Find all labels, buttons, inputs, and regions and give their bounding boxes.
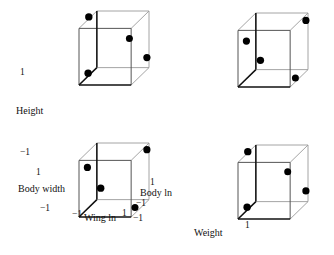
- tick-label-corner-neg: −1: [133, 214, 143, 224]
- data-point: [126, 35, 133, 42]
- label-body-ln: Body ln: [140, 188, 172, 198]
- tick-label-tl-pos-1: 1: [20, 68, 25, 78]
- data-point: [292, 75, 299, 82]
- cube-plot-height-vs-wing-ln: [79, 11, 149, 85]
- data-point: [143, 146, 150, 153]
- tick-label-wing-pos: 1: [122, 209, 127, 219]
- data-point: [302, 187, 309, 194]
- cube-plot-height-vs-body-ln: [238, 13, 308, 87]
- data-point: [244, 148, 251, 155]
- data-point: [243, 203, 250, 210]
- data-point: [257, 57, 264, 64]
- label-body-width: Body width: [18, 184, 65, 194]
- tick-label-bl-neg-2: −1: [40, 204, 50, 214]
- cube-axis-edges: [238, 13, 256, 87]
- data-point: [97, 184, 104, 191]
- tick-label-bodyln-pos: 1: [150, 178, 155, 188]
- data-point: [302, 17, 309, 24]
- data-point: [84, 164, 91, 171]
- data-point: [84, 69, 91, 76]
- data-point: [243, 38, 250, 45]
- label-wing-ln: Wing ln: [84, 213, 116, 223]
- tick-label-bodyln-neg: −1: [136, 199, 146, 209]
- label-weight: Weight: [194, 228, 223, 238]
- label-height: Height: [16, 106, 43, 116]
- cube-axis-edges: [79, 143, 97, 217]
- figure-canvas: HeightBody widthWing lnBody lnWeight 1−1…: [0, 0, 334, 255]
- tick-label-wing-neg: −1: [72, 210, 82, 220]
- data-point: [143, 54, 150, 61]
- cube-plot-weight-vs-body-ln: [238, 145, 308, 219]
- data-point: [284, 168, 291, 175]
- tick-label-weight-pos: 1: [245, 221, 250, 231]
- data-point: [85, 13, 92, 20]
- tick-label-bl-pos-1: 1: [36, 168, 41, 178]
- tick-label-bl-neg-1: −1: [20, 148, 30, 158]
- cube-back-edges: [97, 11, 149, 68]
- cube-back-edges: [256, 145, 308, 202]
